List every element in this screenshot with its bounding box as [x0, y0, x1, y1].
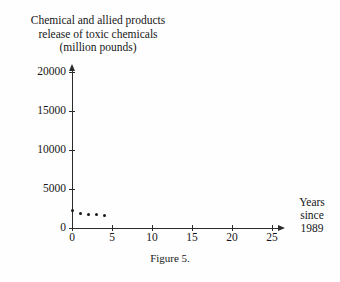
x-axis-label-line-1: Years [288, 196, 336, 209]
x-tick-label-10: 10 [137, 232, 167, 244]
data-point [103, 214, 106, 217]
x-axis-label: Years since 1989 [288, 196, 336, 236]
x-axis-line [72, 228, 280, 229]
y-tick-label-20000: 20000 [6, 66, 66, 78]
data-point [71, 209, 74, 212]
y-tick-10000 [69, 150, 75, 151]
x-axis-arrow-icon [278, 225, 285, 231]
data-point [79, 212, 82, 215]
data-point [87, 213, 90, 216]
x-axis-label-line-2: since [288, 209, 336, 222]
y-axis-arrow-icon [69, 64, 75, 71]
y-tick-15000 [69, 111, 75, 112]
plot-area: 20000 15000 10000 5000 0 0 5 10 15 20 25 [0, 0, 340, 282]
y-tick-5000 [69, 189, 75, 190]
figure-container: Chemical and allied products release of … [0, 0, 340, 282]
x-tick-label-5: 5 [97, 232, 127, 244]
x-tick-label-0: 0 [57, 232, 87, 244]
y-tick-label-5000: 5000 [6, 183, 66, 195]
y-tick-label-15000: 15000 [6, 105, 66, 117]
figure-caption: Figure 5. [0, 252, 340, 264]
data-point [95, 213, 98, 216]
x-tick-label-25: 25 [257, 232, 287, 244]
y-tick-20000 [69, 72, 75, 73]
x-tick-label-15: 15 [177, 232, 207, 244]
y-tick-label-10000: 10000 [6, 144, 66, 156]
x-tick-label-20: 20 [217, 232, 247, 244]
x-axis-label-line-3: 1989 [288, 222, 336, 235]
